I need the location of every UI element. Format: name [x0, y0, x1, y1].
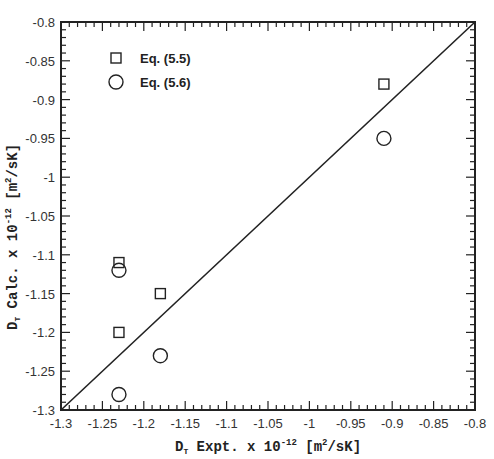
legend-circle-marker-icon — [109, 75, 123, 89]
legend-label-eq-5-5: Eq. (5.5) — [140, 51, 191, 66]
y-tick-label: -1.25 — [25, 364, 55, 379]
x-tick-label: -1.25 — [88, 416, 118, 431]
x-tick-label: -1 — [304, 416, 316, 431]
y-tick-label: -0.8 — [33, 15, 55, 30]
x-tick-label: -1.3 — [50, 416, 72, 431]
circle-marker — [377, 131, 391, 145]
x-tick-label: -0.85 — [419, 416, 449, 431]
circle-marker — [112, 263, 126, 277]
y-tick-label: -1.05 — [25, 209, 55, 224]
x-tick-label: -0.9 — [381, 416, 403, 431]
square-marker — [114, 327, 124, 337]
data-points — [112, 79, 391, 401]
circle-marker — [112, 387, 126, 401]
scatter-chart: -1.3-1.25-1.2-1.15-1.1-1.05-1-0.95-0.9-0… — [0, 0, 494, 459]
x-tick-label: -1.15 — [170, 416, 200, 431]
square-marker — [379, 79, 389, 89]
legend: Eq. (5.5) Eq. (5.6) — [109, 51, 191, 90]
x-axis-label: DT Expt. x 10-12 [m2/sK] — [175, 438, 361, 456]
x-tick-label: -0.8 — [464, 416, 486, 431]
y-tick-label: -0.9 — [33, 93, 55, 108]
y-tick-label: -0.85 — [25, 54, 55, 69]
legend-square-marker-icon — [111, 53, 121, 63]
circle-marker — [153, 349, 167, 363]
legend-label-eq-5-6: Eq. (5.6) — [140, 75, 191, 90]
tick-labels: -1.3-1.25-1.2-1.15-1.1-1.05-1-0.95-0.9-0… — [25, 15, 486, 431]
y-tick-label: -1.3 — [33, 403, 55, 418]
square-marker — [155, 289, 165, 299]
y-tick-label: -1.15 — [25, 287, 55, 302]
y-tick-label: -1 — [43, 170, 55, 185]
square-marker — [114, 258, 124, 268]
x-tick-label: -1.05 — [253, 416, 283, 431]
x-tick-label: -0.95 — [336, 416, 366, 431]
y-tick-label: -0.95 — [25, 131, 55, 146]
y-tick-label: -1.1 — [33, 248, 55, 263]
x-tick-label: -1.2 — [133, 416, 155, 431]
y-tick-label: -1.2 — [33, 325, 55, 340]
x-tick-label: -1.1 — [215, 416, 237, 431]
y-axis-label: DT Calc. x 10-12 [m2/sK] — [4, 144, 22, 330]
